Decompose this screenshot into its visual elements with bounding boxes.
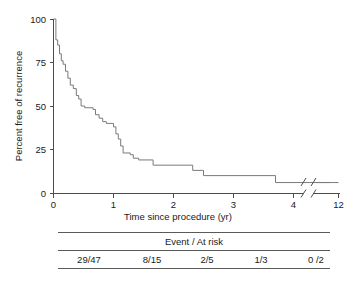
risk-table-header: Event / At risk xyxy=(165,236,223,247)
x-tick-label-3: 3 xyxy=(231,199,236,210)
y-tick-label-25: 25 xyxy=(35,144,46,155)
y-tick-label-100: 100 xyxy=(30,14,46,25)
curve-break-icon xyxy=(301,178,316,186)
y-tick-label-50: 50 xyxy=(35,101,46,112)
x-axis-break-icon xyxy=(301,190,316,198)
y-tick-label-0: 0 xyxy=(41,188,46,199)
x-tick-label-4: 4 xyxy=(291,199,296,210)
x-tick-label-2: 2 xyxy=(171,199,176,210)
kaplan-meier-figure: 100 75 50 25 0 Percent free of recurrenc… xyxy=(0,0,349,282)
y-axis-ticks xyxy=(50,19,54,193)
x-tick-label-0: 0 xyxy=(51,199,56,210)
km-step-curve xyxy=(54,19,330,183)
x-tick-label-12: 12 xyxy=(333,199,344,210)
x-axis-ticks xyxy=(54,194,339,198)
risk-table-cell-2: 2/5 xyxy=(200,254,213,265)
risk-table-cell-4: 0 /2 xyxy=(308,254,324,265)
risk-table-cell-3: 1/3 xyxy=(254,254,267,265)
y-axis-title: Percent free of recurrence xyxy=(13,51,24,161)
risk-table-cell-1: 8/15 xyxy=(143,254,162,265)
y-tick-label-75: 75 xyxy=(35,57,46,68)
risk-table-cell-0: 29/47 xyxy=(77,254,101,265)
x-axis-title: Time since procedure (yr) xyxy=(124,211,232,222)
chart-canvas: 100 75 50 25 0 Percent free of recurrenc… xyxy=(0,0,349,282)
x-tick-label-1: 1 xyxy=(111,199,116,210)
